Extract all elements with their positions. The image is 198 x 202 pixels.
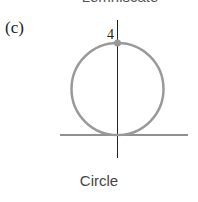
figure-caption: Circle bbox=[0, 172, 198, 189]
point-marker bbox=[114, 40, 121, 47]
y-axis-value-label: 4 bbox=[107, 27, 114, 42]
